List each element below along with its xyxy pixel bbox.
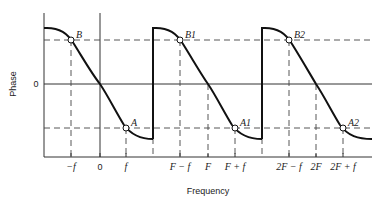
label-A2: A2 <box>347 117 359 128</box>
point-B <box>68 37 74 43</box>
label-A: A <box>130 117 138 128</box>
label-B2: B2 <box>294 29 305 40</box>
tick-F-minus-f: F − f <box>169 161 192 172</box>
y-axis-title: Phase <box>8 71 18 97</box>
label-A1: A1 <box>239 117 251 128</box>
point-A1 <box>232 125 238 131</box>
phase-frequency-diagram: B A B1 A1 B2 A2 −f 0 f F − f F F + f 2F … <box>0 0 387 205</box>
label-B: B <box>76 29 82 40</box>
phase-curves <box>44 28 372 139</box>
point-A <box>123 125 129 131</box>
x-ticks <box>71 153 343 157</box>
label-B1: B1 <box>185 29 196 40</box>
point-B1 <box>177 37 183 43</box>
dashed-guides <box>44 28 372 157</box>
tick-0: 0 <box>97 162 102 172</box>
y-zero-label: 0 <box>33 79 38 89</box>
point-A2 <box>340 125 346 131</box>
tick-2F: 2F <box>310 161 322 172</box>
point-B2 <box>286 37 292 43</box>
x-axis-title: Frequency <box>187 186 230 196</box>
tick-2F-plus-f: 2F + f <box>330 161 357 172</box>
x-tick-labels: −f 0 f F − f F F + f 2F − f 2F 2F + f <box>66 161 357 172</box>
tick-F-plus-f: F + f <box>224 161 247 172</box>
tick-minus-f: −f <box>66 161 77 172</box>
tick-2F-minus-f: 2F − f <box>276 161 303 172</box>
tick-F: F <box>204 161 212 172</box>
point-labels: B A B1 A1 B2 A2 <box>76 29 359 128</box>
tick-f: f <box>125 161 129 172</box>
